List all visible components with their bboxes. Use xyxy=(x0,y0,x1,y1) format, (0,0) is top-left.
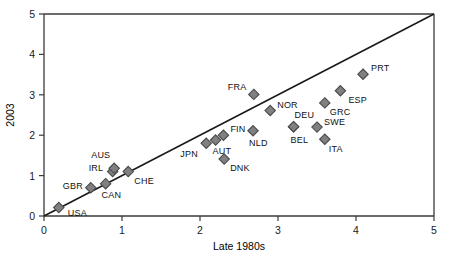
x-axis-ticks: 012345 xyxy=(41,216,437,236)
data-point: PRT xyxy=(358,63,390,79)
data-point-label: BEL xyxy=(291,135,309,145)
data-point: NLD xyxy=(248,126,268,148)
y-tick-label: 4 xyxy=(29,48,35,60)
data-point-label: AUS xyxy=(91,150,110,160)
data-point: FIN xyxy=(218,124,245,140)
data-point-marker xyxy=(249,89,259,99)
data-point-label: AUT xyxy=(213,146,232,156)
data-point-label: JPN xyxy=(180,149,198,159)
data-point-label: DNK xyxy=(230,163,250,173)
data-point-label: NLD xyxy=(249,138,268,148)
y-tick-label: 1 xyxy=(29,170,35,182)
y-tick-label: 2 xyxy=(29,129,35,141)
y-tick-label: 0 xyxy=(29,210,35,222)
data-point: FRA xyxy=(228,82,259,99)
y-tick-label: 5 xyxy=(29,8,35,20)
data-point-label: DEU xyxy=(295,110,315,120)
data-point: GRC xyxy=(320,98,351,117)
data-point-label: FIN xyxy=(230,124,245,134)
data-point-marker xyxy=(335,86,345,96)
data-points-group: USAGBRCANIRLAUSCHEJPNAUTFINDNKNLDFRANORD… xyxy=(54,63,390,217)
data-point: CHE xyxy=(123,166,154,185)
x-tick-label: 2 xyxy=(197,224,203,236)
data-point: ITA xyxy=(320,134,343,154)
data-point-label: IRL xyxy=(89,163,104,173)
data-point-label: GRC xyxy=(330,107,351,117)
data-point: ESP xyxy=(335,86,367,105)
data-point-label: CAN xyxy=(102,190,122,200)
data-point-label: ITA xyxy=(329,144,343,154)
data-point-label: FRA xyxy=(228,82,247,92)
data-point: USA xyxy=(54,202,87,217)
x-tick-label: 1 xyxy=(119,224,125,236)
x-axis-title: Late 1980s xyxy=(213,240,265,252)
data-point-label: USA xyxy=(68,208,87,218)
data-point-marker xyxy=(358,69,368,79)
data-point: GBR xyxy=(63,181,96,193)
data-point: DNK xyxy=(219,154,250,173)
data-point-label: GBR xyxy=(63,181,83,191)
x-tick-label: 0 xyxy=(41,224,47,236)
data-point-marker xyxy=(320,98,330,108)
data-point-marker xyxy=(265,105,275,115)
y-axis-title: 2003 xyxy=(4,103,16,127)
data-point-label: PRT xyxy=(371,63,390,73)
y-axis-ticks: 012345 xyxy=(29,8,44,222)
x-tick-label: 3 xyxy=(275,224,281,236)
chart-canvas: 012345 012345 USAGBRCANIRLAUSCHEJPNAUTFI… xyxy=(0,0,453,261)
data-point-marker xyxy=(201,138,211,148)
data-point-marker xyxy=(248,126,258,136)
data-point: BEL xyxy=(288,122,308,145)
x-tick-label: 5 xyxy=(431,224,437,236)
data-point: NOR xyxy=(265,100,298,116)
data-point-marker xyxy=(320,134,330,144)
data-point-marker xyxy=(123,166,133,176)
y-tick-label: 3 xyxy=(29,89,35,101)
data-point-marker xyxy=(100,178,110,188)
x-tick-label: 4 xyxy=(353,224,359,236)
data-point: SWE xyxy=(312,117,345,132)
data-point-marker xyxy=(288,122,298,132)
data-point-marker xyxy=(312,122,322,132)
data-point-marker xyxy=(54,202,64,212)
data-point-label: SWE xyxy=(324,117,345,127)
scatter-chart: 012345 012345 USAGBRCANIRLAUSCHEJPNAUTFI… xyxy=(0,0,453,261)
data-point-label: ESP xyxy=(348,95,367,105)
data-point-label: CHE xyxy=(134,176,154,186)
data-point: JPN xyxy=(180,138,211,159)
data-point-label: NOR xyxy=(277,100,298,110)
data-point-marker xyxy=(86,183,96,193)
